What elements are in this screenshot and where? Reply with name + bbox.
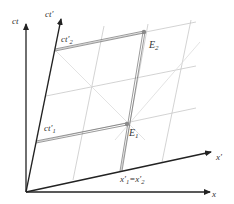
ct-axis-label: ct — [12, 16, 19, 26]
event-e2-label: E2 — [148, 39, 159, 52]
projection-lines — [36, 31, 145, 171]
ct-prime-axis-label: ct′ — [45, 9, 54, 19]
spacetime-diagram: ct ct′ x x′ E2 E1 ct′2 ct′1 x′1=x′2 — [0, 0, 234, 204]
x-axis-label: x — [211, 189, 216, 199]
ct-prime-1-label: ct′1 — [44, 123, 56, 134]
ct-prime-axis — [26, 19, 61, 192]
ct-prime-2-label: ct′2 — [61, 34, 73, 45]
event-e1-label: E1 — [128, 127, 139, 140]
x-prime-axis-label: x′ — [215, 152, 223, 162]
x-prime-1-equals-x-prime-2-label: x′1=x′2 — [119, 174, 145, 185]
event-e2-dot — [142, 30, 146, 34]
axes — [26, 19, 211, 192]
grid-lines-x-prime — [36, 22, 196, 142]
event-e1-dot — [125, 122, 129, 126]
x-prime-axis — [26, 152, 211, 192]
